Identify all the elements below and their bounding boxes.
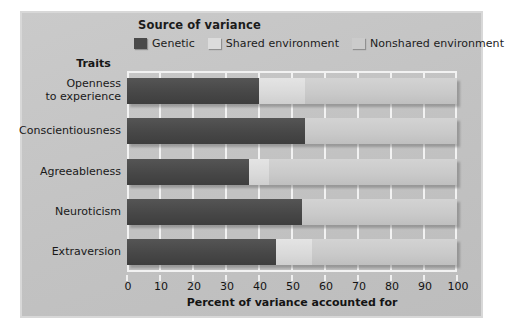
y-tick-label: Agreeableness bbox=[1, 166, 121, 179]
legend-swatch-genetic bbox=[134, 38, 147, 49]
bar-segment bbox=[127, 239, 276, 265]
legend-item-0: Genetic bbox=[134, 37, 195, 50]
bar-segment bbox=[127, 118, 305, 144]
legend-swatch-nonshared-environment bbox=[352, 38, 365, 49]
y-tick-label: Openness to experience bbox=[1, 78, 121, 103]
x-axis-title: Percent of variance accounted for bbox=[127, 296, 457, 309]
bar-segment bbox=[302, 199, 457, 225]
y-tick-label: Extraversion bbox=[1, 246, 121, 259]
legend-label-0: Genetic bbox=[152, 37, 195, 50]
bar-segment bbox=[305, 118, 457, 144]
legend-title: Source of variance bbox=[138, 18, 261, 32]
bar-segment bbox=[269, 159, 457, 185]
legend: GeneticShared environmentNonshared envir… bbox=[134, 37, 509, 50]
bar-row bbox=[127, 118, 457, 144]
legend-swatch-shared-environment bbox=[208, 38, 221, 49]
bar-segment bbox=[249, 159, 269, 185]
y-tick-label: Neuroticism bbox=[1, 206, 121, 219]
bar-row bbox=[127, 239, 457, 265]
bar-segment bbox=[127, 159, 249, 185]
bar-segment bbox=[312, 239, 457, 265]
bar-segment bbox=[127, 199, 302, 225]
legend-item-1: Shared environment bbox=[208, 37, 339, 50]
bar-row bbox=[127, 78, 457, 104]
bar-row bbox=[127, 159, 457, 185]
legend-label-1: Shared environment bbox=[226, 37, 339, 50]
bar-segment bbox=[259, 78, 305, 104]
bar-segment bbox=[305, 78, 457, 104]
plot-area: 0102030405060708090100 bbox=[127, 71, 457, 272]
bar-segment bbox=[127, 78, 259, 104]
legend-item-2: Nonshared environment bbox=[352, 37, 504, 50]
bar-row bbox=[127, 199, 457, 225]
bar-segment bbox=[276, 239, 312, 265]
legend-label-2: Nonshared environment bbox=[370, 37, 504, 50]
y-axis-title: Traits bbox=[66, 57, 121, 70]
x-tick-label-100: 100 bbox=[438, 280, 478, 293]
y-tick-label: Conscientiousness bbox=[1, 125, 121, 138]
